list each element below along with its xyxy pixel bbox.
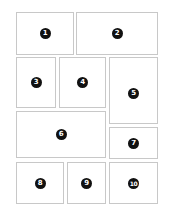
panel-10: 10 (109, 162, 158, 204)
panel-4: 4 (59, 57, 106, 108)
panel-1: 1 (16, 12, 74, 55)
panel-6: 6 (16, 111, 106, 158)
panel-3: 3 (16, 57, 56, 108)
panel-5: 5 (109, 57, 158, 124)
number-badge: 1 (40, 28, 51, 39)
number-badge: 6 (56, 129, 67, 140)
panel-8: 8 (16, 162, 64, 204)
number-badge: 3 (31, 77, 42, 88)
number-badge: 10 (128, 178, 139, 189)
panel-9: 9 (67, 162, 106, 204)
number-badge: 7 (128, 138, 139, 149)
panel-2: 2 (76, 12, 158, 55)
number-badge: 2 (112, 28, 123, 39)
panel-7: 7 (109, 127, 158, 159)
number-badge: 4 (77, 77, 88, 88)
number-badge: 8 (35, 178, 46, 189)
number-badge: 9 (81, 178, 92, 189)
number-badge: 5 (128, 88, 139, 99)
